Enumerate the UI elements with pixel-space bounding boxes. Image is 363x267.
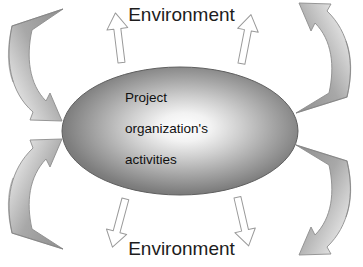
curved-arrow-bottom-right-icon [296, 145, 351, 255]
curved-arrow-top-left-icon [8, 9, 63, 121]
diagram-graphics [0, 0, 363, 267]
curved-arrow-bottom-left-icon [8, 139, 63, 249]
arrow-up-right-icon [231, 13, 261, 66]
project-organization-ellipse [62, 67, 298, 195]
arrow-down-left-icon [102, 196, 135, 250]
arrow-down-right-icon [227, 195, 259, 248]
diagram-canvas: Environment Project organization's activ… [0, 0, 363, 267]
arrow-up-left-icon [105, 12, 132, 64]
curved-arrow-top-right-icon [296, 3, 351, 113]
